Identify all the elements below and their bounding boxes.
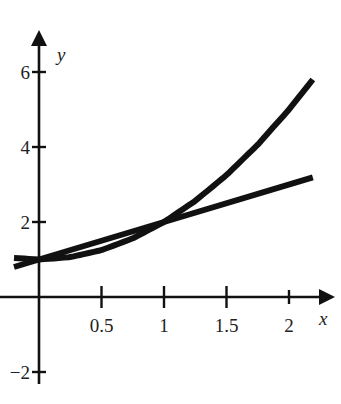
data-series <box>14 80 313 268</box>
secant-line <box>14 177 313 267</box>
x-axis-arrow-icon <box>319 289 335 305</box>
y-axis-arrow-icon <box>31 30 47 46</box>
y-tick-label: −2 <box>10 362 30 383</box>
y-tick-label: 2 <box>21 212 31 233</box>
x-axis-label: x <box>318 308 328 329</box>
x-tick-label: 1 <box>159 315 169 336</box>
x-tick-label: 0.5 <box>90 315 114 336</box>
parabola-curve <box>14 80 313 260</box>
ticks: 0.511.52642−2 <box>10 62 294 383</box>
x-tick-label: 2 <box>284 315 294 336</box>
y-tick-label: 6 <box>21 62 31 83</box>
y-axis-label: y <box>55 44 66 65</box>
y-tick-label: 4 <box>21 137 31 158</box>
x-tick-label: 1.5 <box>215 315 239 336</box>
plot-canvas: 0.511.52642−2 x y <box>0 0 341 404</box>
